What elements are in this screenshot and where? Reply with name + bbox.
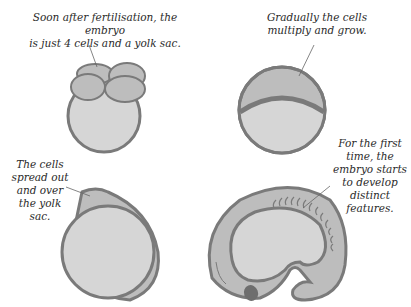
stage-3-illustration [62, 187, 158, 300]
leader-line-2 [299, 45, 314, 76]
stage-2-illustration [239, 45, 325, 153]
embryo-diagram [0, 0, 411, 307]
stage-4-illustration [209, 186, 346, 303]
stage-1-illustration [68, 45, 145, 152]
